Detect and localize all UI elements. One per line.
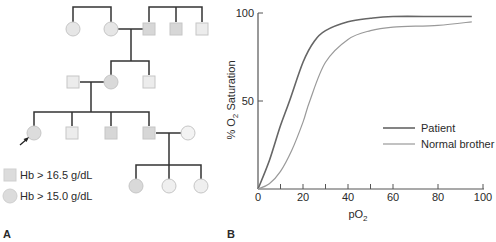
gen2-sibship-line	[111, 61, 149, 75]
x-axis-label: pO2	[348, 208, 368, 223]
x-ticks	[281, 184, 484, 189]
gen2-marriage-line	[80, 82, 104, 112]
chart-legend: Patient Normal brother	[383, 122, 495, 150]
gen1-left-sibship-line	[73, 7, 111, 22]
individual-III-5-spouse-female	[181, 126, 195, 140]
legend-circle-icon	[3, 189, 17, 203]
individual-III-1-proband-female	[27, 126, 41, 140]
series-patient-curve	[258, 16, 472, 189]
y-tick-100: 100	[236, 7, 254, 19]
pedigree-legend: Hb > 16.5 g/dL Hb > 15.0 g/dL	[3, 169, 92, 203]
individual-I-3-male-affected	[143, 23, 155, 35]
x-tick-60: 60	[387, 191, 399, 203]
individual-II-3-male	[143, 76, 155, 88]
legend-square-icon	[4, 169, 16, 181]
legend-brother-label: Normal brother	[421, 138, 495, 150]
individual-III-2-male	[66, 127, 78, 139]
x-tick-0: 0	[255, 191, 261, 203]
gen3-sibship-line	[34, 112, 149, 126]
individual-IV-3-female	[194, 179, 208, 193]
individual-I-1-female	[66, 22, 80, 36]
gen3-marriage-line	[156, 133, 181, 165]
panel-label-a: A	[3, 228, 11, 240]
legend-square-text: Hb > 16.5 g/dL	[20, 169, 92, 181]
individual-II-2-female-affected	[104, 75, 118, 89]
individual-IV-1-female-affected	[129, 179, 143, 193]
individual-II-1-male	[67, 76, 79, 88]
series-normal-brother-curve	[258, 22, 472, 189]
individual-I-2-female	[104, 22, 118, 36]
pedigree-individuals	[27, 22, 208, 193]
x-tick-100: 100	[474, 191, 492, 203]
individual-I-4-male-affected	[170, 23, 182, 35]
gen1-right-sibship-line	[149, 7, 202, 22]
x-tick-20: 20	[297, 191, 309, 203]
proband-arrow-icon	[20, 137, 29, 145]
legend-circle-text: Hb > 15.0 g/dL	[20, 190, 92, 202]
x-tick-40: 40	[342, 191, 354, 203]
y-tick-50: 50	[242, 95, 254, 107]
gen4-sibship-line	[136, 165, 201, 179]
individual-III-3-male-affected	[105, 127, 117, 139]
y-axis-label: % O2 Saturation	[225, 60, 240, 139]
individual-IV-2-female	[162, 179, 176, 193]
individual-I-5-male	[196, 23, 208, 35]
individual-III-4-male-affected	[143, 127, 155, 139]
gen1-marriage-line	[118, 29, 143, 61]
x-tick-80: 80	[432, 191, 444, 203]
legend-patient-label: Patient	[421, 122, 455, 134]
panel-label-b: B	[227, 228, 235, 240]
chart: 100 50 0 20 40 60 80 100 pO2 % O2 Satura…	[225, 7, 495, 223]
figure: Hb > 16.5 g/dL Hb > 15.0 g/dL A 100 50 0…	[0, 0, 496, 242]
